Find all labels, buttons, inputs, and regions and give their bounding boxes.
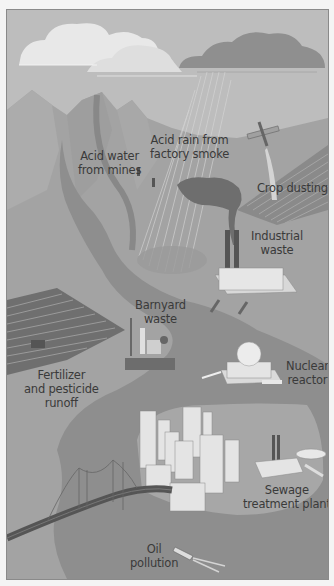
label-barnyard-waste: Barnyard waste — [135, 298, 186, 326]
label-oil-pollution: Oil pollution — [130, 542, 178, 570]
label-acid-rain: Acid rain from factory smoke — [150, 133, 229, 161]
label-industrial-waste: Industrial waste — [251, 229, 303, 257]
label-nuclear-reactor: Nuclear reactor — [286, 359, 329, 387]
label-acid-water: Acid water from mines — [78, 149, 141, 177]
tractor-icon — [31, 340, 45, 348]
label-sewage-plant: Sewage treatment plant — [243, 483, 329, 511]
label-crop-dusting: Crop dusting — [257, 181, 328, 195]
pollution-diagram-frame: Acid water from mines Acid rain from fac… — [6, 9, 329, 580]
label-fertilizer-runoff: Fertilizer and pesticide runoff — [24, 368, 99, 410]
